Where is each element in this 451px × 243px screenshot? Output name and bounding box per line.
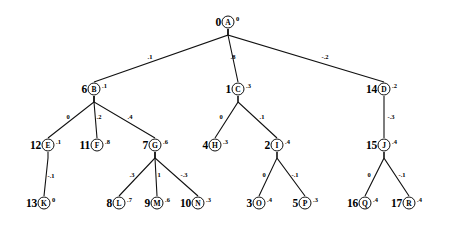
node-value-h: .3 [223, 138, 228, 145]
node-index-h: 4 [202, 139, 208, 151]
node-value-c: .3 [246, 82, 251, 89]
tree-node-l[interactable]: L [113, 197, 126, 210]
edge-label-g-n: -.3 [180, 171, 187, 178]
node-index-j: 15 [366, 139, 377, 151]
node-value-a: 0 [236, 15, 239, 22]
edge-label-b-f: .2 [97, 113, 102, 120]
node-value-i: .4 [285, 138, 290, 145]
node-letter: B [91, 85, 96, 93]
node-value-r: .4 [417, 196, 422, 203]
tree-edges-layer [0, 0, 451, 243]
tree-node-p[interactable]: P [299, 197, 312, 210]
tree-node-b[interactable]: B [88, 83, 101, 96]
node-index-f: 11 [80, 139, 90, 151]
node-index-i: 2 [264, 139, 270, 151]
node-index-p: 5 [292, 197, 298, 209]
edge-label-i-p: -.1 [291, 171, 298, 178]
node-value-f: .8 [105, 138, 110, 145]
edge-label-i-o: 0 [262, 171, 265, 178]
node-value-p: .3 [313, 196, 318, 203]
tree-edge [155, 152, 198, 196]
node-value-l: .7 [127, 196, 132, 203]
tree-edge [94, 96, 155, 138]
node-letter: L [116, 199, 121, 207]
node-letter: D [381, 85, 386, 93]
tree-node-g[interactable]: G [149, 139, 162, 152]
node-letter: Q [362, 199, 368, 207]
tree-node-e[interactable]: E [42, 139, 55, 152]
tree-node-a[interactable]: A [222, 16, 235, 29]
edge-label-b-e: 0 [66, 113, 69, 120]
node-letter: O [256, 199, 262, 207]
tree-node-f[interactable]: F [91, 139, 104, 152]
tree-node-i[interactable]: I [271, 139, 284, 152]
node-index-n: 10 [180, 197, 191, 209]
node-index-l: 8 [106, 197, 112, 209]
node-index-r: 17 [391, 197, 402, 209]
tree-diagram-canvas: 0A06B.11C.314D.212E.111F.87G.64H.32I.415… [0, 0, 451, 243]
edge-label-d-j: -.3 [387, 113, 394, 120]
node-letter: N [195, 199, 200, 207]
tree-node-n[interactable]: N [192, 197, 205, 210]
edge-label-c-i: .1 [260, 113, 265, 120]
edge-label-a-d: -.2 [321, 53, 328, 60]
tree-edge [94, 29, 228, 82]
node-letter: E [45, 141, 50, 149]
node-letter: J [382, 141, 386, 149]
node-letter: I [276, 141, 279, 149]
node-letter: M [153, 199, 160, 207]
tree-edge [238, 96, 277, 138]
node-value-m: .6 [165, 196, 170, 203]
node-value-g: .6 [163, 138, 168, 145]
tree-edge [228, 29, 384, 82]
tree-node-d[interactable]: D [378, 83, 391, 96]
node-letter: P [303, 199, 308, 207]
tree-edge [119, 152, 155, 196]
tree-node-c[interactable]: C [232, 83, 245, 96]
node-index-c: 1 [225, 83, 231, 95]
tree-node-m[interactable]: M [151, 197, 164, 210]
edge-label-b-g: .4 [128, 113, 133, 120]
tree-node-r[interactable]: R [403, 197, 416, 210]
edge-label-c-h: 0 [219, 113, 222, 120]
node-letter: K [41, 199, 47, 207]
node-value-q: .4 [373, 196, 378, 203]
edge-label-j-q: 0 [367, 171, 370, 178]
node-letter: H [212, 141, 218, 149]
node-index-a: 0 [215, 16, 221, 28]
node-index-o: 3 [246, 197, 252, 209]
tree-node-q[interactable]: Q [359, 197, 372, 210]
node-letter: G [152, 141, 158, 149]
tree-node-k[interactable]: K [38, 197, 51, 210]
node-index-q: 16 [347, 197, 358, 209]
edge-label-g-m: 1 [157, 171, 160, 178]
node-letter: A [225, 18, 230, 26]
node-index-e: 12 [30, 139, 41, 151]
edge-label-g-l: .3 [130, 171, 135, 178]
tree-edge [48, 96, 94, 138]
edge-label-j-r: -.1 [398, 171, 405, 178]
node-index-d: 14 [366, 83, 377, 95]
node-index-m: 9 [144, 197, 150, 209]
node-letter: F [95, 141, 100, 149]
node-letter: C [235, 85, 240, 93]
node-value-d: .2 [392, 82, 397, 89]
edge-label-a-c: .8 [231, 53, 236, 60]
edge-label-a-b: .1 [148, 53, 153, 60]
node-value-b: .1 [102, 82, 107, 89]
node-value-o: .4 [267, 196, 272, 203]
node-value-k: 0 [52, 196, 55, 203]
node-index-b: 6 [81, 83, 87, 95]
node-index-g: 7 [142, 139, 148, 151]
node-value-e: .1 [56, 138, 61, 145]
tree-node-j[interactable]: J [378, 139, 391, 152]
tree-node-h[interactable]: H [209, 139, 222, 152]
node-letter: R [406, 199, 411, 207]
node-value-j: .4 [392, 138, 397, 145]
node-index-k: 13 [26, 197, 37, 209]
edge-label-e-k: -.1 [47, 172, 54, 179]
tree-node-o[interactable]: O [253, 197, 266, 210]
node-value-n: .3 [206, 196, 211, 203]
